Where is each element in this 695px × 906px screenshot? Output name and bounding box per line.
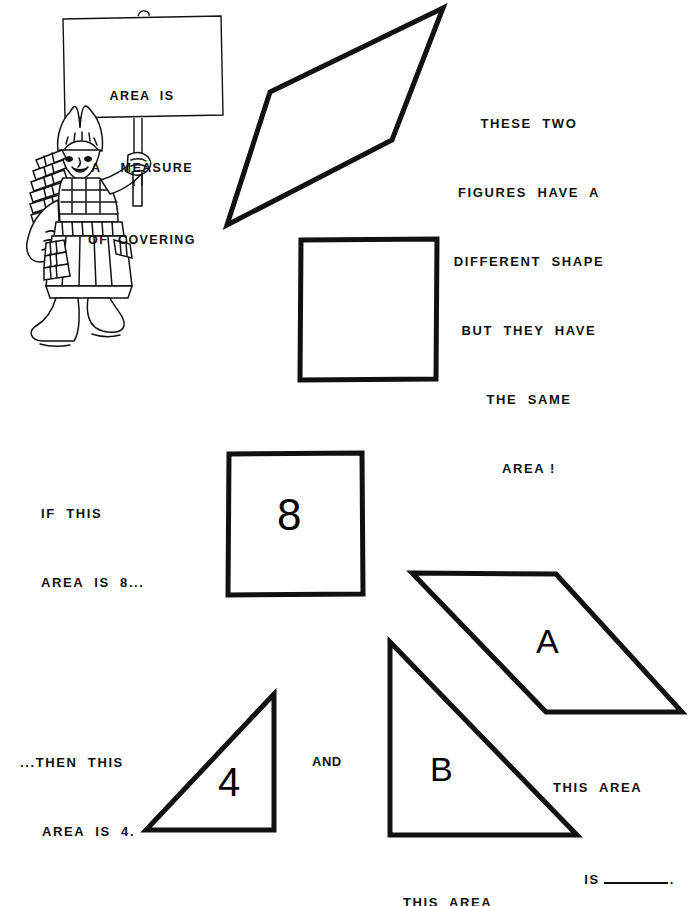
and-conjunction: AND <box>312 750 342 773</box>
worksheet-page: AREA IS A MEASURE OF COVERING THESE TWO … <box>0 0 695 906</box>
top-parallelogram-shape <box>227 8 443 225</box>
blank-a-block: THIS AREA IS. <box>553 730 693 906</box>
top-caption-line-6: AREA ! <box>434 457 624 480</box>
top-square-shape <box>300 239 437 380</box>
sign-text-block: AREA IS A MEASURE OF COVERING <box>63 36 221 300</box>
top-caption-line-1: THESE TWO <box>434 112 624 135</box>
square-8-label: 8 <box>277 493 301 537</box>
blank-a-answer-row: IS. <box>553 845 693 906</box>
top-caption-line-4: BUT THEY HAVE <box>434 319 624 342</box>
triangle-b-label: B <box>430 752 453 786</box>
then-caption-block: ...THEN THIS AREA IS 4. <box>20 705 220 889</box>
blank-a-line-1: THIS AREA <box>553 776 693 799</box>
top-caption-line-2: FIGURES HAVE A <box>434 181 624 204</box>
blank-b-line-1: THIS AREA <box>403 891 543 906</box>
if-caption-line-2: AREA IS 8... <box>41 571 241 594</box>
sign-line-1: AREA IS <box>63 84 221 108</box>
top-caption-line-5: THE SAME <box>434 388 624 411</box>
sign-line-2: A MEASURE <box>63 156 221 180</box>
if-caption-block: IF THIS AREA IS 8... <box>41 456 241 640</box>
top-caption-line-3: DIFFERENT SHAPE <box>434 250 624 273</box>
blank-a-prefix: IS <box>584 872 599 887</box>
blank-b-block: THIS AREA IS. <box>403 845 543 906</box>
blank-a-suffix: . <box>670 872 675 887</box>
then-caption-line-2: AREA IS 4. <box>20 820 220 843</box>
blank-a-input[interactable] <box>604 871 668 884</box>
then-caption-line-1: ...THEN THIS <box>20 751 220 774</box>
sign-line-3: OF COVERING <box>63 228 221 252</box>
if-caption-line-1: IF THIS <box>41 502 241 525</box>
top-caption-block: THESE TWO FIGURES HAVE A DIFFERENT SHAPE… <box>434 66 624 526</box>
parallelogram-a-label: A <box>536 624 559 658</box>
triangle-4-label: 4 <box>218 762 240 802</box>
